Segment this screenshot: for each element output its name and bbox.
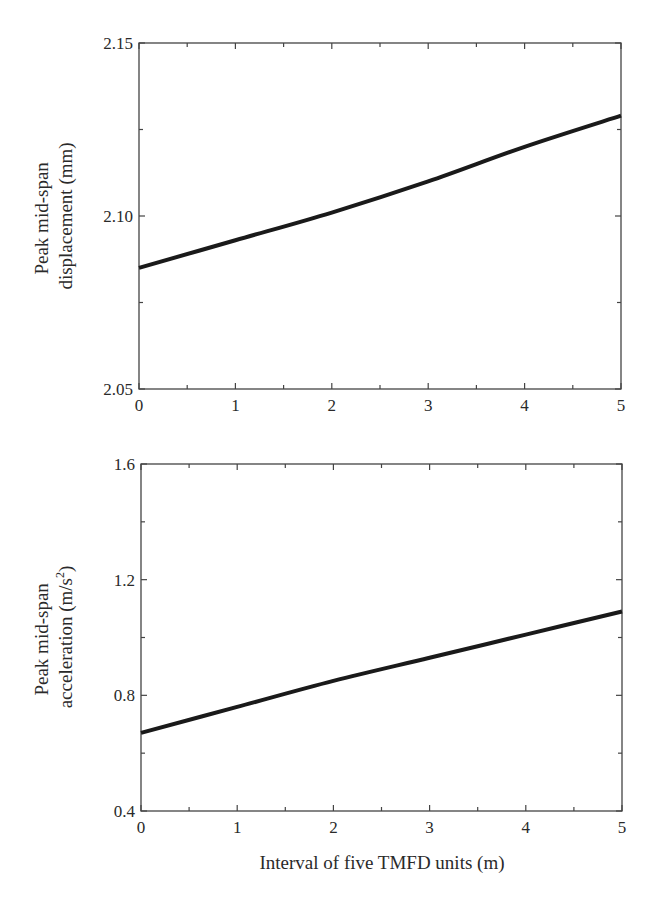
- displacement-line: [139, 116, 621, 268]
- x-tick-label: 1: [233, 818, 242, 837]
- y-axis-title: Peak mid-span displacement (mm): [31, 142, 77, 289]
- y-axis-title-close: ): [55, 566, 77, 572]
- x-tick-label: 3: [424, 396, 433, 415]
- y-axis-title: Peak mid-span acceleration (m/s2): [31, 566, 77, 709]
- x-axis-ticks: [139, 43, 621, 389]
- y-axis-ticks: [141, 464, 622, 811]
- x-tick-label: 4: [520, 396, 529, 415]
- y-tick-label: 0.4: [114, 802, 136, 821]
- y-tick-label: 0.8: [114, 686, 135, 705]
- y-tick-label: 1.6: [114, 455, 135, 474]
- x-tick-label: 0: [137, 818, 146, 837]
- x-tick-labels: 012345: [135, 396, 626, 415]
- y-tick-labels: 0.40.81.21.6: [114, 455, 136, 821]
- x-tick-label: 5: [618, 818, 627, 837]
- y-tick-label: 1.2: [114, 571, 135, 590]
- y-axis-title-line2: displacement (mm): [55, 142, 77, 289]
- x-axis-title: Interval of five TMFD units (m): [259, 852, 504, 874]
- y-tick-label: 2.10: [103, 207, 133, 226]
- x-tick-label: 2: [328, 396, 337, 415]
- x-tick-label: 5: [617, 396, 626, 415]
- x-axis-ticks: [141, 464, 622, 811]
- x-tick-label: 1: [231, 396, 240, 415]
- acceleration-line: [141, 611, 622, 732]
- x-tick-label: 2: [329, 818, 338, 837]
- y-axis-title-line2: acceleration (m/s: [55, 578, 77, 708]
- plot-frame: [139, 43, 621, 389]
- x-tick-label: 3: [425, 818, 434, 837]
- x-tick-label: 0: [135, 396, 144, 415]
- x-tick-label: 4: [522, 818, 531, 837]
- x-tick-labels: 012345: [137, 818, 627, 837]
- plot-frame: [141, 464, 622, 811]
- y-axis-ticks: [139, 43, 621, 389]
- y-tick-label: 2.05: [103, 380, 133, 399]
- figure: 2.052.102.15 012345 Peak mid-span displa…: [0, 0, 662, 902]
- y-tick-labels: 2.052.102.15: [103, 34, 133, 399]
- y-axis-title-line1: Peak mid-span: [31, 162, 52, 275]
- acceleration-chart: 0.40.81.21.6 012345 Peak mid-span accele…: [31, 455, 626, 874]
- y-tick-label: 2.15: [103, 34, 133, 53]
- displacement-chart: 2.052.102.15 012345 Peak mid-span displa…: [31, 34, 625, 415]
- y-axis-title-line1: Peak mid-span: [31, 583, 52, 696]
